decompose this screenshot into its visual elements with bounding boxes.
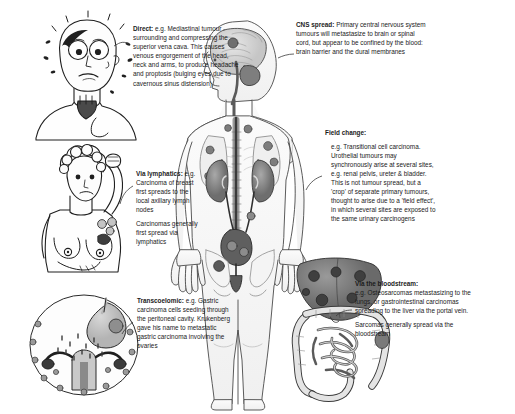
note-field-body: e.g. Transitional cell carcinoma. Urothe…	[325, 142, 437, 224]
note-direct-body: e.g. Mediastinal tumour surrounding and …	[133, 25, 239, 87]
note-transcoelomic-heading: Transcoelomic:	[137, 297, 184, 304]
note-bloodstream-body: e.g. Osteosarcomas metastasizing to the …	[355, 289, 471, 314]
note-field-heading-line: Field change:	[325, 128, 437, 137]
note-lymphatics-text: Via lymphatics: e.g. Carcinoma of breast…	[136, 169, 202, 214]
note-direct: Direct: e.g. Mediastinal tumour surround…	[133, 24, 241, 88]
note-cns-heading: CNS spread:	[296, 21, 334, 28]
note-lymphatics: Via lymphatics: e.g. Carcinoma of breast…	[136, 169, 202, 246]
note-bloodstream-text: Via the bloodstream:e.g. Osteosarcomas m…	[355, 279, 473, 315]
figure-canvas: Direct: e.g. Mediastinal tumour surround…	[0, 0, 515, 414]
note-direct-heading: Direct:	[133, 25, 153, 32]
note-lymphatics-heading: Via lymphatics:	[136, 170, 183, 177]
note-field-change: Field change: e.g. Transitional cell car…	[325, 128, 437, 223]
note-direct-text: Direct: e.g. Mediastinal tumour surround…	[133, 24, 241, 88]
note-transcoelomic-body: e.g. Gastric carcinoma cells seeding thr…	[137, 297, 230, 349]
illustration-peritoneal-cavity	[30, 295, 138, 395]
note-bloodstream-heading: Via the bloodstream:	[355, 280, 418, 287]
note-transcoelomic: Transcoelomic: e.g. Gastric carcinoma ce…	[137, 296, 235, 351]
illustration-svc-face	[36, 11, 136, 140]
note-transcoelomic-text: Transcoelomic: e.g. Gastric carcinoma ce…	[137, 296, 235, 351]
note-cns-spread: CNS spread: Primary central nervous syst…	[296, 20, 426, 56]
illustration-breast-lymphatics	[42, 145, 123, 273]
note-field-heading: Field change:	[325, 129, 366, 136]
note-cns-text: CNS spread: Primary central nervous syst…	[296, 20, 426, 56]
note-bloodstream: Via the bloodstream:e.g. Osteosarcomas m…	[355, 279, 473, 338]
note-bloodstream-body2: Sarcomas generally spread via the bloods…	[355, 320, 473, 338]
note-lymphatics-body2: Carcinomas generally first spread via ly…	[136, 219, 202, 246]
anatomy-illustration	[0, 0, 515, 414]
